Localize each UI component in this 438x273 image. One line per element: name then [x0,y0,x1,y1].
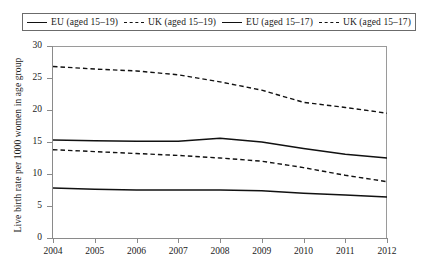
x-tick-label: 2009 [239,246,285,256]
legend-line-swatch-solid-icon [27,19,47,26]
x-tick-mark [304,238,305,243]
x-tick-label: 2007 [155,246,201,256]
y-tick-label: 5 [0,201,42,211]
legend-label: UK (aged 15–17) [343,17,411,27]
x-tick-label: 2011 [322,246,368,256]
series-line [53,66,387,113]
legend-item-eu-15-19[interactable]: EU (aged 15–19) [24,17,121,27]
series-line [53,188,387,197]
x-tick-mark [53,238,54,243]
series-line [53,138,387,158]
x-tick-label: 2008 [197,246,243,256]
legend-item-uk-15-19[interactable]: UK (aged 15–19) [121,17,219,27]
x-tick-mark [387,238,388,243]
y-tick-label: 10 [0,169,42,179]
y-tick-label: 0 [0,233,42,243]
y-tick-label: 20 [0,105,42,115]
series-lines [53,46,387,238]
x-tick-mark [178,238,179,243]
x-tick-mark [137,238,138,243]
x-tick-mark [345,238,346,243]
chart-legend: EU (aged 15–19) UK (aged 15–19) EU (aged… [22,13,416,31]
legend-item-eu-15-17[interactable]: EU (aged 15–17) [219,17,316,27]
legend-label: UK (aged 15–19) [148,17,216,27]
legend-line-swatch-dashed-icon [319,19,339,26]
x-tick-label: 2006 [114,246,160,256]
x-tick-mark [220,238,221,243]
y-tick-label: 30 [0,41,42,51]
x-tick-label: 2010 [281,246,327,256]
legend-line-swatch-solid-icon [222,19,242,26]
x-tick-label: 2012 [364,246,410,256]
legend-line-swatch-dashed-icon [124,19,144,26]
series-line [53,150,387,182]
x-tick-mark [95,238,96,243]
y-tick-label: 25 [0,73,42,83]
legend-label: EU (aged 15–17) [246,17,313,27]
legend-label: EU (aged 15–19) [51,17,118,27]
x-tick-label: 2005 [72,246,118,256]
line-chart: EU (aged 15–19) UK (aged 15–19) EU (aged… [0,0,438,273]
x-tick-mark [262,238,263,243]
legend-item-uk-15-17[interactable]: UK (aged 15–17) [316,17,414,27]
x-tick-label: 2004 [30,246,76,256]
y-tick-label: 15 [0,137,42,147]
